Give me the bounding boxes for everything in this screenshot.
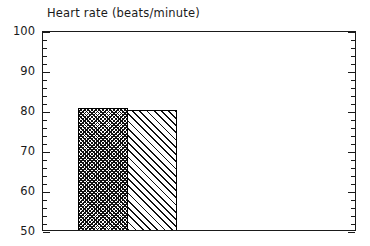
chart-title: Heart rate (beats/minute) — [47, 6, 200, 20]
axis-minor-tick — [351, 168, 355, 169]
axis-minor-tick — [43, 176, 47, 177]
axis-minor-tick — [43, 144, 47, 145]
axis-minor-tick — [351, 88, 355, 89]
axis-minor-tick — [351, 144, 355, 145]
axis-minor-tick — [43, 40, 47, 41]
bar-group-2[interactable] — [127, 110, 177, 230]
axis-minor-tick — [43, 48, 47, 49]
axis-minor-tick — [351, 176, 355, 177]
axis-minor-tick — [351, 216, 355, 217]
axis-minor-tick — [351, 160, 355, 161]
axis-minor-tick — [351, 104, 355, 105]
axis-minor-tick — [43, 168, 47, 169]
axis-minor-tick — [351, 64, 355, 65]
axis-minor-tick — [43, 104, 47, 105]
axis-minor-tick — [351, 136, 355, 137]
y-axis-tick-label: 100 — [5, 26, 35, 37]
axis-major-tick — [348, 192, 355, 193]
y-axis-tick-label: 50 — [5, 226, 35, 237]
axis-minor-tick — [43, 56, 47, 57]
axis-minor-tick — [43, 64, 47, 65]
heart-rate-bar-chart: Heart rate (beats/minute) 100 90 80 70 6… — [0, 0, 370, 246]
axis-minor-tick — [43, 216, 47, 217]
y-axis-tick-label: 80 — [5, 106, 35, 117]
axis-major-tick — [43, 72, 50, 73]
axis-major-tick — [348, 152, 355, 153]
axis-major-tick — [348, 112, 355, 113]
axis-minor-tick — [43, 208, 47, 209]
axis-minor-tick — [43, 224, 47, 225]
y-axis-tick-label: 90 — [5, 66, 35, 77]
axis-major-tick — [348, 32, 355, 33]
axis-major-tick — [43, 232, 50, 233]
axis-minor-tick — [351, 48, 355, 49]
axis-major-tick — [43, 152, 50, 153]
axis-minor-tick — [43, 96, 47, 97]
axis-minor-tick — [351, 200, 355, 201]
bar-group-1[interactable] — [78, 108, 128, 230]
axis-minor-tick — [351, 80, 355, 81]
axis-minor-tick — [351, 40, 355, 41]
y-axis-tick-label: 60 — [5, 186, 35, 197]
axis-minor-tick — [43, 120, 47, 121]
axis-minor-tick — [43, 128, 47, 129]
axis-minor-tick — [43, 88, 47, 89]
axis-minor-tick — [351, 224, 355, 225]
axis-minor-tick — [351, 96, 355, 97]
plot-area — [42, 31, 356, 231]
axis-major-tick — [43, 112, 50, 113]
axis-minor-tick — [351, 208, 355, 209]
axis-minor-tick — [43, 80, 47, 81]
axis-minor-tick — [351, 128, 355, 129]
axis-minor-tick — [351, 184, 355, 185]
axis-minor-tick — [43, 184, 47, 185]
axis-minor-tick — [43, 136, 47, 137]
axis-minor-tick — [351, 120, 355, 121]
axis-minor-tick — [43, 160, 47, 161]
axis-major-tick — [43, 192, 50, 193]
axis-major-tick — [348, 72, 355, 73]
axis-minor-tick — [43, 200, 47, 201]
y-axis-tick-label: 70 — [5, 146, 35, 157]
axis-major-tick — [43, 32, 50, 33]
axis-major-tick — [348, 232, 355, 233]
axis-minor-tick — [351, 56, 355, 57]
